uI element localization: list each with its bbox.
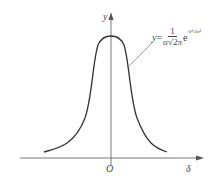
formula-equals: = — [156, 32, 162, 43]
formula-fraction: 1 σ√2π — [163, 27, 182, 47]
formula-numerator: 1 — [168, 27, 177, 37]
bell-curve — [44, 36, 167, 152]
x-axis-arrow-icon — [196, 156, 204, 161]
origin-label: O — [106, 163, 113, 174]
density-formula: y = 1 σ√2π e -δ²/2σ² — [152, 27, 201, 47]
x-axis-label: δ — [186, 163, 191, 174]
y-axis-label: y — [102, 11, 108, 22]
formula-exponent: -δ²/2σ² — [187, 29, 201, 34]
y-axis-arrow-icon — [109, 12, 114, 20]
formula-denominator: σ√2π — [163, 37, 182, 47]
formula-leader-line — [128, 43, 152, 67]
